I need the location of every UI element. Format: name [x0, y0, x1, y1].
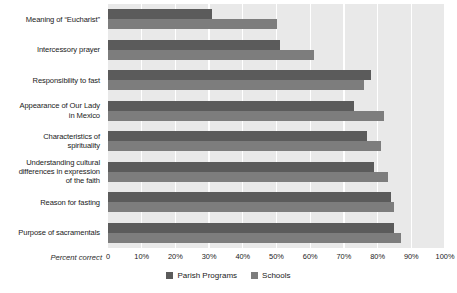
category-label-line: in Mexico — [0, 111, 100, 120]
legend-item[interactable]: Parish Programs — [166, 271, 237, 280]
bar-parish-programs — [108, 131, 367, 141]
bar-schools — [108, 172, 388, 182]
legend-item[interactable]: Schools — [251, 271, 290, 280]
category-label-line: Appearance of Our Lady — [0, 101, 100, 110]
x-tick-label: 10% — [134, 252, 149, 261]
category-label-line: Understanding cultural — [0, 158, 100, 167]
category-label-line: Meaning of “Eucharist” — [0, 15, 100, 24]
x-tick-label: 0 — [106, 252, 110, 261]
bar-schools — [108, 233, 401, 243]
plot-area — [108, 4, 445, 248]
x-tick-label: 90% — [404, 252, 419, 261]
category-label: Meaning of “Eucharist” — [0, 15, 100, 24]
category-label-line: of the faith — [0, 176, 100, 185]
bar-schools — [108, 50, 314, 60]
legend-swatch-icon — [251, 272, 258, 279]
category-label-line: Reason for fasting — [0, 198, 100, 207]
category-label-line: differences in expression — [0, 167, 100, 176]
category-label: Intercessory prayer — [0, 45, 100, 54]
category-label: Reason for fasting — [0, 198, 100, 207]
bar-schools — [108, 19, 277, 29]
bar-group — [108, 218, 445, 249]
x-tick-label: 40% — [235, 252, 250, 261]
bar-group — [108, 4, 445, 35]
bar-parish-programs — [108, 40, 280, 50]
bar-parish-programs — [108, 70, 371, 80]
bar-parish-programs — [108, 101, 354, 111]
bar-parish-programs — [108, 223, 394, 233]
bar-schools — [108, 111, 384, 121]
legend-label: Parish Programs — [177, 271, 237, 280]
x-tick-label: 20% — [168, 252, 183, 261]
bar-schools — [108, 141, 381, 151]
x-tick-label: 100% — [436, 252, 455, 261]
category-label-line: Intercessory prayer — [0, 45, 100, 54]
x-axis-title: Percent correct — [36, 253, 102, 262]
bar-schools — [108, 80, 364, 90]
bar-parish-programs — [108, 162, 374, 172]
bar-parish-programs — [108, 192, 391, 202]
category-label: Characteristics ofspirituality — [0, 132, 100, 151]
category-label-line: spirituality — [0, 141, 100, 150]
category-label: Appearance of Our Ladyin Mexico — [0, 101, 100, 120]
x-tick-label: 30% — [202, 252, 217, 261]
x-tick-label: 60% — [303, 252, 318, 261]
bar-group — [108, 126, 445, 157]
category-label: Responsibility to fast — [0, 76, 100, 85]
chart-legend: Parish ProgramsSchools — [0, 271, 457, 280]
bar-group — [108, 157, 445, 188]
category-label-line: Responsibility to fast — [0, 76, 100, 85]
bar-group — [108, 35, 445, 66]
x-tick-label: 80% — [370, 252, 385, 261]
bar-group — [108, 96, 445, 127]
category-label-line: Purpose of sacramentals — [0, 228, 100, 237]
category-axis: Meaning of “Eucharist”Intercessory praye… — [0, 0, 104, 248]
x-tick-label: 50% — [269, 252, 284, 261]
legend-swatch-icon — [166, 272, 173, 279]
category-label: Understanding culturaldifferences in exp… — [0, 158, 100, 186]
bar-chart: Meaning of “Eucharist”Intercessory praye… — [0, 0, 457, 293]
x-tick-label: 70% — [336, 252, 351, 261]
category-label: Purpose of sacramentals — [0, 228, 100, 237]
bar-schools — [108, 202, 394, 212]
bar-group — [108, 187, 445, 218]
bar-parish-programs — [108, 9, 212, 19]
category-label-line: Characteristics of — [0, 132, 100, 141]
legend-label: Schools — [262, 271, 290, 280]
bar-group — [108, 65, 445, 96]
